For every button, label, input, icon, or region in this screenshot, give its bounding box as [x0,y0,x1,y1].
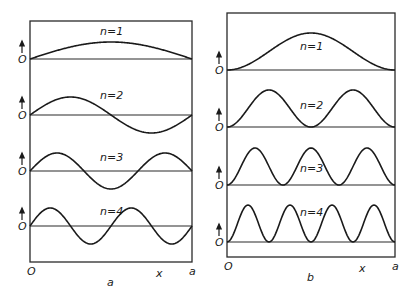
panel-caption: b [307,271,314,284]
x-axis-end-label: a [392,260,399,273]
panel-a-wavefunctions: n=1On=2On=3On=4OOxaa [18,21,196,289]
origin-label: O [215,64,224,77]
up-arrow-icon [217,52,221,64]
up-arrow-icon [217,109,221,121]
quantum-number-label: n=2 [100,89,123,102]
wavefunction-curve [30,42,192,59]
up-arrow-icon [20,97,24,109]
row-n-4: n=4O [18,205,192,244]
up-arrow-icon [20,41,24,53]
quantum-number-label: n=4 [100,205,123,218]
row-n-1: n=1O [215,33,395,77]
quantum-number-label: n=1 [100,25,123,38]
wavefunction-figure: n=1On=2On=3On=4OOxaa n=1On=2On=3On=4OOxa… [0,0,416,296]
row-n-3: n=3O [18,151,192,189]
row-n-2: n=2O [18,89,192,133]
quantum-number-label: n=4 [300,206,323,219]
origin-label: O [18,53,27,66]
up-arrow-icon [217,224,221,236]
panel-b-probability-densities: n=1On=2On=3On=4OOxab [215,13,399,284]
x-axis-origin-label: O [224,260,233,273]
x-axis-variable-label: x [155,267,163,280]
x-axis-origin-label: O [27,265,36,278]
row-n-2: n=2O [215,90,395,134]
up-arrow-icon [20,153,24,165]
origin-label: O [215,121,224,134]
up-arrow-icon [217,167,221,179]
x-axis-variable-label: x [358,262,366,275]
quantum-number-label: n=3 [300,162,323,175]
panel-caption: a [107,276,114,289]
row-n-4: n=4O [215,205,395,249]
origin-label: O [18,165,27,178]
origin-label: O [18,220,27,233]
up-arrow-icon [20,208,24,220]
row-n-1: n=1O [18,25,192,66]
quantum-number-label: n=1 [300,40,323,53]
x-axis-end-label: a [189,265,196,278]
quantum-number-label: n=3 [100,151,123,164]
origin-label: O [215,236,224,249]
origin-label: O [18,109,27,122]
origin-label: O [215,179,224,192]
row-n-3: n=3O [215,148,395,192]
quantum-number-label: n=2 [300,99,323,112]
